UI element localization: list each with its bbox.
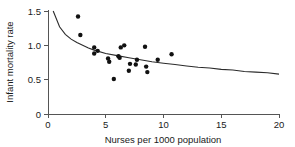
x-axis: 05101520 — [45, 114, 284, 130]
data-point — [169, 52, 173, 56]
fitted-trend-curve — [53, 11, 279, 74]
data-point — [127, 69, 131, 73]
data-point — [95, 49, 99, 53]
data-point — [92, 51, 96, 55]
chart-canvas: 00.51.01.5 05101520 Nurses per 1000 popu… — [0, 0, 295, 147]
data-point — [145, 70, 149, 74]
data-point — [135, 58, 139, 62]
y-tick-label: 0 — [36, 109, 41, 120]
data-point — [107, 60, 111, 64]
data-point — [92, 45, 96, 49]
y-tick-label: 0.5 — [28, 74, 41, 85]
y-tick-group — [44, 11, 48, 114]
y-tick-label: 1.5 — [28, 6, 41, 17]
y-axis: 00.51.01.5 — [28, 6, 48, 120]
x-tick-label: 10 — [158, 119, 169, 130]
data-point — [117, 55, 121, 59]
data-point — [78, 33, 82, 37]
x-tick-group — [48, 114, 279, 118]
x-tick-label: 0 — [45, 119, 50, 130]
data-point — [134, 62, 138, 66]
x-tick-label-group: 05101520 — [45, 119, 284, 130]
data-point — [112, 77, 116, 81]
x-tick-label: 20 — [274, 119, 285, 130]
y-axis-title: Infant mortality rate — [4, 21, 15, 102]
infant-mortality-scatter-chart: 00.51.01.5 05101520 Nurses per 1000 popu… — [0, 0, 295, 147]
data-point — [122, 43, 126, 47]
x-tick-label: 5 — [103, 119, 108, 130]
x-tick-label: 15 — [216, 119, 227, 130]
data-point — [143, 45, 147, 49]
data-point — [144, 64, 148, 68]
scatter-points-group — [76, 14, 174, 81]
y-tick-label-group: 00.51.01.5 — [28, 6, 41, 120]
y-tick-label: 1.0 — [28, 40, 41, 51]
data-point — [76, 14, 80, 18]
data-point — [128, 62, 132, 66]
x-axis-title: Nurses per 1000 population — [105, 134, 222, 145]
data-point — [156, 58, 160, 62]
